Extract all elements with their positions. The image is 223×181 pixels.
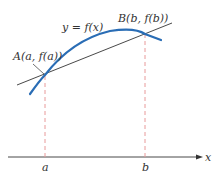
mean-value-theorem-diagram: y = f(x) B(b, f(b)) A(a, f(a)) x a b — [0, 0, 223, 181]
point-b-label: B(b, f(b)) — [117, 12, 168, 25]
tick-b-label: b — [142, 161, 149, 174]
point-a-label: A(a, f(a)) — [12, 50, 62, 63]
curve-label: y = f(x) — [61, 21, 103, 34]
x-axis-label: x — [205, 151, 212, 164]
point-a-leader — [33, 64, 44, 74]
tick-a-label: a — [42, 161, 49, 174]
x-axis-arrow-icon — [196, 155, 203, 160]
